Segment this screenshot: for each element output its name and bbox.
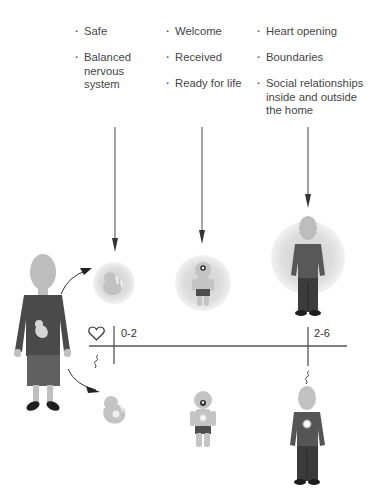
child-in-aura-figure [271,216,345,316]
age-label-2-6: 2-6 [314,327,330,339]
diagram-scene [0,0,373,502]
down-arrow-2-6 [305,127,311,208]
toddler-in-aura-figure [175,255,231,311]
age-label-0-2: 0-2 [121,327,137,339]
child-with-heart-light-figure [290,386,325,485]
toddler-with-heart-light-figure [190,391,216,447]
fetus-figure [103,396,125,424]
squiggle-icon [306,371,309,384]
curved-arrow-down [68,369,96,390]
fetus-in-aura-figure [93,262,135,304]
down-arrow-middle [199,127,205,244]
heart-icon [89,327,104,340]
pregnant-mother-figure [14,254,71,413]
squiggle-icon [95,355,98,368]
down-arrow-0-2 [112,127,118,252]
